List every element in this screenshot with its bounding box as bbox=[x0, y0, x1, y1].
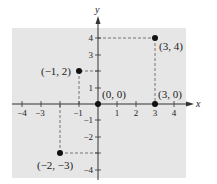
point-label: (3, 0) bbox=[158, 88, 182, 101]
point-neg1-2 bbox=[76, 68, 82, 74]
point-neg2-neg3 bbox=[57, 150, 63, 156]
x-tick-label: 1 bbox=[115, 108, 120, 118]
x-tick-label: 3 bbox=[153, 108, 158, 118]
y-axis-arrow-icon bbox=[96, 16, 101, 24]
coordinate-plot: −4 −3 −1 1 2 3 4 4 3 1 −1 −2 −4 x y (3, … bbox=[0, 0, 217, 184]
y-tick-label: 3 bbox=[89, 50, 94, 60]
point-label: (−1, 2) bbox=[41, 65, 71, 78]
point-label: (0, 0) bbox=[102, 88, 126, 101]
point-label: (3, 4) bbox=[159, 40, 183, 53]
y-tick-label: 4 bbox=[89, 33, 94, 43]
x-tick-label: −1 bbox=[73, 108, 83, 118]
x-axis-arrow-icon bbox=[186, 102, 194, 107]
y-tick-label: 1 bbox=[89, 83, 94, 93]
point-label: (−2, −3) bbox=[37, 159, 74, 172]
point-3-0 bbox=[152, 101, 158, 107]
point-3-4 bbox=[152, 35, 158, 41]
point-0-0 bbox=[95, 101, 101, 107]
y-axis-label: y bbox=[94, 4, 100, 15]
x-axis-label: x bbox=[195, 98, 201, 109]
x-tick-label: −4 bbox=[17, 108, 27, 118]
x-tick-label: −3 bbox=[35, 108, 45, 118]
y-tick-label: −1 bbox=[83, 115, 93, 125]
x-tick-label: 4 bbox=[172, 108, 177, 118]
y-tick-label: −2 bbox=[83, 132, 93, 142]
x-tick-label: 2 bbox=[134, 108, 139, 118]
y-tick-label: −4 bbox=[83, 165, 93, 175]
